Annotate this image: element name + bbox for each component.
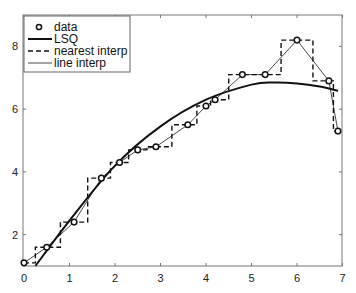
x-tick-label: 6 [294, 272, 300, 284]
x-tick-label: 2 [112, 272, 118, 284]
x-tick-label: 1 [66, 272, 72, 284]
data-point-marker [326, 78, 332, 84]
data-point-marker [99, 175, 105, 181]
x-tick-label: 4 [203, 272, 209, 284]
data-point-marker [294, 37, 300, 43]
data-point-marker [153, 144, 159, 150]
data-point-marker [71, 219, 77, 225]
data-point-marker [117, 160, 123, 166]
data-point-marker [185, 122, 191, 128]
x-tick-label: 0 [21, 272, 27, 284]
x-tick-label: 5 [248, 272, 254, 284]
data-point-marker [21, 260, 27, 266]
data-point-marker [135, 147, 141, 153]
x-tick-label: 7 [339, 272, 345, 284]
data-point-marker [262, 72, 268, 78]
data-point-marker [212, 97, 218, 103]
legend: data LSQ nearest interp line interp [24, 16, 130, 72]
chart: 012345672468 data LSQ nearest interp lin… [0, 0, 356, 293]
data-point-marker [240, 72, 246, 78]
y-tick-label: 4 [12, 166, 18, 178]
y-tick-label: 6 [12, 103, 18, 115]
legend-label-line-interp: line interp [54, 56, 106, 70]
data-point-marker [203, 103, 209, 109]
data-point-marker [44, 244, 50, 250]
data-point-marker [335, 128, 341, 134]
y-tick-label: 8 [12, 40, 18, 52]
x-tick-label: 3 [157, 272, 163, 284]
y-tick-label: 2 [12, 229, 18, 241]
